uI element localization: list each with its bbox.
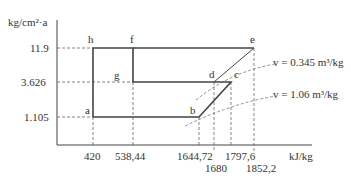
point-b: b bbox=[190, 105, 196, 116]
horizontal-guides bbox=[57, 48, 133, 117]
curve-label-v-0345: v = 0.345 m³/kg bbox=[273, 57, 344, 68]
x-tick-1680: 1680 bbox=[205, 163, 227, 174]
x-tick-1852: 1852,2 bbox=[246, 163, 276, 174]
point-d: d bbox=[209, 69, 215, 80]
point-h: h bbox=[88, 34, 94, 45]
point-e: e bbox=[250, 34, 255, 45]
vertical-guides bbox=[93, 48, 254, 152]
y-axis-label: kg/cm²·a bbox=[8, 17, 47, 28]
y-tick-3-626: 3.626 bbox=[21, 77, 46, 88]
cycle-path bbox=[93, 48, 254, 117]
x-tick-538: 538,44 bbox=[115, 151, 145, 162]
x-axis-label: kJ/kg bbox=[289, 151, 313, 162]
y-tick-1-105: 1.105 bbox=[24, 112, 49, 123]
y-tick-11-9: 11.9 bbox=[30, 43, 49, 54]
curve-v-106 bbox=[185, 96, 275, 126]
x-tick-420: 420 bbox=[84, 151, 101, 162]
point-g: g bbox=[114, 70, 120, 81]
point-f: f bbox=[130, 34, 134, 45]
point-c: c bbox=[234, 69, 239, 80]
point-a: a bbox=[85, 105, 90, 116]
x-tick-1644: 1644,72 bbox=[177, 151, 213, 162]
x-tick-1797: 1797,6 bbox=[225, 151, 255, 162]
curve-label-v-106: v = 1.06 m³/kg bbox=[273, 89, 338, 100]
